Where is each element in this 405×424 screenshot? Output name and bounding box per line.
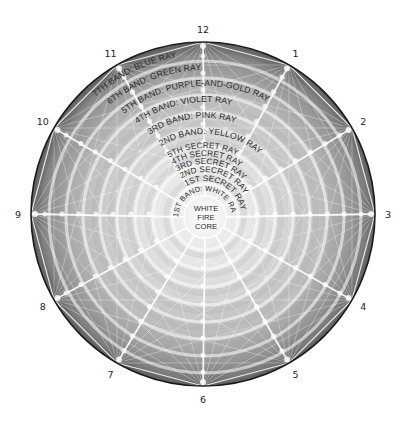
vertex-node — [55, 295, 61, 301]
spoke-node — [308, 273, 313, 278]
clock-label-9: 9 — [15, 209, 21, 220]
spoke-node — [271, 89, 276, 94]
spoke-node — [271, 334, 276, 339]
vertex-node — [32, 211, 38, 217]
vertex-node — [284, 356, 290, 362]
clock-label-12: 12 — [197, 24, 209, 35]
spoke-node — [236, 274, 241, 279]
spoke-node — [93, 211, 98, 216]
vertex-node — [345, 127, 351, 133]
spoke-node — [279, 348, 284, 353]
spoke-node — [108, 158, 113, 163]
spoke-node — [200, 53, 205, 58]
spoke-node — [200, 121, 205, 126]
spoke-node — [324, 211, 329, 216]
spoke-node — [272, 211, 277, 216]
spoke-node — [78, 282, 83, 287]
clock-label-10: 10 — [37, 116, 49, 127]
spoke-node — [59, 211, 64, 216]
spoke-node — [245, 289, 250, 294]
clock-label-7: 7 — [107, 369, 113, 380]
spoke-node — [121, 348, 126, 353]
spoke-node — [200, 369, 205, 374]
clock-label-4: 4 — [360, 301, 366, 312]
spoke-node — [337, 290, 342, 295]
spoke-node — [263, 247, 268, 252]
spoke-node — [262, 319, 267, 324]
spoke-node — [155, 289, 160, 294]
spoke-node — [64, 290, 69, 295]
vertex-node — [200, 43, 206, 49]
spoke-node — [76, 211, 81, 216]
vertex-node — [345, 295, 351, 301]
spoke-node — [147, 119, 152, 124]
core-line-1: WHITE — [194, 204, 218, 213]
clock-label-2: 2 — [360, 116, 366, 127]
spoke-node — [122, 256, 127, 261]
spoke-node — [146, 211, 151, 216]
spoke-node — [110, 211, 115, 216]
spoke-node — [200, 318, 205, 323]
spoke-node — [147, 304, 152, 309]
spoke-node — [290, 211, 295, 216]
spoke-node — [200, 283, 205, 288]
clock-label-8: 8 — [40, 301, 46, 312]
spoke-node — [293, 158, 298, 163]
spoke-node — [164, 274, 169, 279]
spoke-node — [200, 352, 205, 357]
spoke-node — [254, 211, 259, 216]
spoke-node — [173, 258, 178, 263]
clock-label-6: 6 — [200, 394, 206, 405]
spoke-node — [154, 238, 159, 243]
spoke-node — [358, 211, 363, 216]
spoke-node — [122, 166, 127, 171]
vertex-node — [200, 379, 206, 385]
spoke-node — [263, 175, 268, 180]
clock-label-11: 11 — [104, 48, 116, 59]
spoke-node — [130, 334, 135, 339]
spoke-node — [154, 184, 159, 189]
spoke-node — [254, 119, 259, 124]
clock-label-1: 1 — [292, 48, 298, 59]
vertex-node — [368, 211, 374, 217]
spoke-node — [254, 304, 259, 309]
spoke-node — [279, 75, 284, 80]
vertex-node — [116, 356, 122, 362]
spoke-node — [227, 258, 232, 263]
spoke-node — [200, 104, 205, 109]
spoke-node — [200, 265, 205, 270]
spoke-node — [138, 319, 143, 324]
spoke-node — [337, 132, 342, 137]
spoke-node — [200, 87, 205, 92]
spoke-node — [293, 265, 298, 270]
spoke-node — [278, 166, 283, 171]
spoke-node — [200, 301, 205, 306]
spoke-node — [323, 282, 328, 287]
spoke-node — [200, 335, 205, 340]
spoke-node — [138, 175, 143, 180]
spoke-node — [341, 211, 346, 216]
spoke-node — [308, 149, 313, 154]
spoke-node — [278, 256, 283, 261]
spoke-node — [307, 211, 312, 216]
vertex-node — [55, 127, 61, 133]
spoke-node — [108, 265, 113, 270]
core-line-2: FIRE — [197, 213, 214, 222]
spoke-node — [64, 132, 69, 137]
spoke-node — [93, 273, 98, 278]
vertex-node — [284, 66, 290, 72]
spoke-node — [323, 141, 328, 146]
clock-label-5: 5 — [292, 369, 298, 380]
spoke-node — [262, 104, 267, 109]
core-line-3: CORE — [195, 222, 217, 231]
spoke-node — [247, 238, 252, 243]
spoke-node — [128, 211, 133, 216]
spoke-node — [42, 211, 47, 216]
spoke-node — [138, 247, 143, 252]
spoke-node — [93, 149, 98, 154]
spoke-node — [78, 141, 83, 146]
core-label: WHITE FIRE CORE — [194, 204, 218, 231]
causal-body-diagram: 7TH BAND: BLUE RAY6TH BAND: GREEN RAY5TH… — [0, 0, 405, 424]
clock-label-3: 3 — [385, 209, 391, 220]
